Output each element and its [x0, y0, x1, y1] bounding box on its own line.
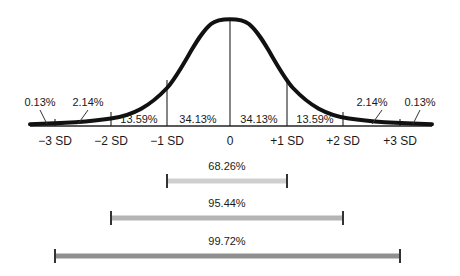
axis-tick-label-plus1sd: +1 SD	[270, 135, 304, 147]
axis-tick-label-minus2sd: −2 SD	[94, 135, 128, 147]
interval-label-68: 68.26%	[208, 161, 245, 172]
interval-label-99-72: 99.72%	[208, 236, 245, 247]
tail-label-right-second: 2.14%	[356, 97, 387, 108]
band-label-minus2-minus1: 13.59%	[120, 114, 157, 125]
band-label-plus1-plus2: 13.59%	[296, 114, 333, 125]
tail-label-right-outer: 0.13%	[404, 97, 435, 108]
band-label-mean-plus1: 34.13%	[240, 114, 277, 125]
interval-label-95: 95.44%	[208, 198, 245, 209]
band-label-minus1-mean: 34.13%	[179, 114, 216, 125]
axis-tick-label-plus3sd: +3 SD	[383, 135, 417, 147]
axis-tick-label-minus1sd: −1 SD	[150, 135, 184, 147]
normal-distribution-figure: 0.13% 2.14% 2.14% 0.13% 13.59% 34.13% 34…	[0, 0, 460, 276]
axis-tick-label-mean: 0	[227, 135, 234, 147]
axis-tick-label-plus2sd: +2 SD	[326, 135, 360, 147]
normal-curve	[30, 19, 432, 124]
axis-tick-label-minus3sd: −3 SD	[38, 135, 72, 147]
tail-label-left-outer: 0.13%	[24, 97, 55, 108]
tail-label-left-second: 2.14%	[72, 97, 103, 108]
